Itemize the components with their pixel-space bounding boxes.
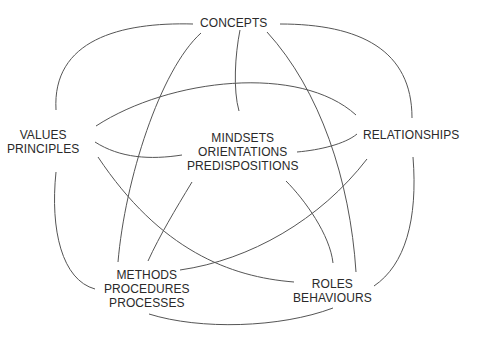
node-methods-procedures-processes: METHODS PROCEDURES PROCESSES (104, 268, 190, 310)
node-values-principles: VALUES PRINCIPLES (7, 128, 79, 156)
node-methods-line-1: METHODS (104, 268, 190, 282)
node-methods-line-2: PROCEDURES (104, 282, 190, 296)
edge-values-relationships (96, 83, 356, 126)
node-mindsets-line-1: MINDSETS (187, 131, 299, 145)
edge-methods-roles (149, 308, 333, 325)
node-methods-line-3: PROCESSES (104, 296, 190, 310)
node-relationships: RELATIONSHIPS (363, 128, 459, 142)
edge-concepts-values (56, 24, 193, 110)
edge-relationships-roles (374, 157, 414, 286)
node-roles-line-2: BEHAVIOURS (293, 291, 372, 305)
edge-mindsets-methods (148, 182, 192, 261)
node-mindsets-line-3: PREDISPOSITIONS (187, 159, 299, 173)
concept-network-diagram: CONCEPTS VALUES PRINCIPLES MINDSETS ORIE… (0, 0, 482, 343)
node-mindsets-line-2: ORIENTATIONS (187, 145, 299, 159)
node-values-line-2: PRINCIPLES (7, 142, 79, 156)
edge-concepts-mindsets (235, 30, 240, 111)
node-concepts-line-1: CONCEPTS (200, 16, 267, 30)
edge-mindsets-roles (286, 181, 333, 263)
node-concepts: CONCEPTS (200, 16, 267, 30)
edge-relationships-methods (180, 159, 367, 270)
edge-concepts-relationships (280, 24, 412, 118)
node-values-line-1: VALUES (7, 128, 79, 142)
edge-mindsets-relationships (297, 134, 357, 152)
node-roles-line-1: ROLES (293, 277, 372, 291)
node-roles-behaviours: ROLES BEHAVIOURS (293, 277, 372, 305)
edge-values-methods (55, 172, 95, 289)
edge-values-roles (98, 157, 294, 282)
node-mindsets-orientations-predispositions: MINDSETS ORIENTATIONS PREDISPOSITIONS (187, 131, 299, 173)
node-relationships-line-1: RELATIONSHIPS (363, 128, 459, 142)
